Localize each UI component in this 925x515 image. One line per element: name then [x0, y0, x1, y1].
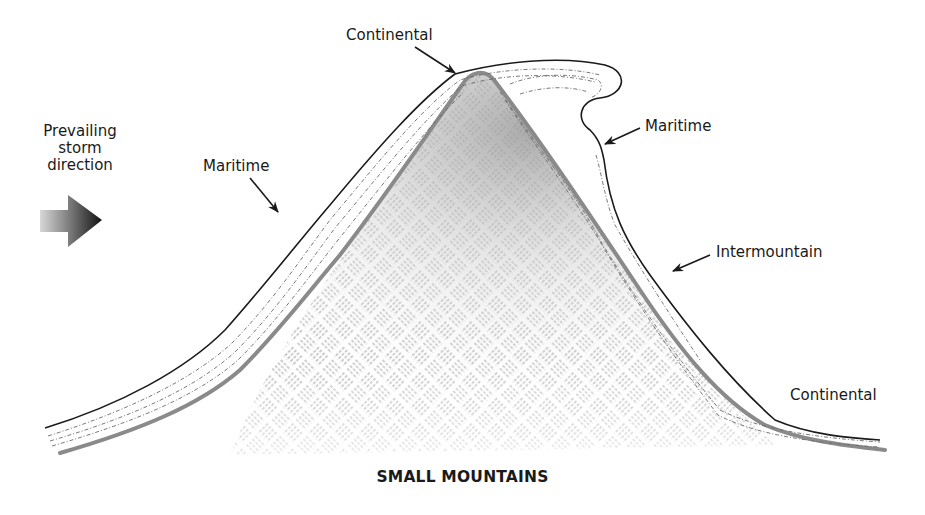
- right-arrow-icon: [40, 195, 102, 247]
- storm-label-line1: Prevailing: [30, 123, 130, 140]
- pointer-intermountain: [673, 255, 710, 271]
- pointer-maritime-right: [605, 128, 640, 144]
- pointer-maritime-left: [250, 178, 278, 212]
- diagram-title: SMALL MOUNTAINS: [0, 468, 925, 486]
- storm-direction-label: Prevailing storm direction: [30, 123, 130, 174]
- label-maritime-left: Maritime: [203, 158, 269, 175]
- pointer-continental-top: [415, 47, 455, 73]
- storm-label-line3: direction: [30, 157, 130, 174]
- diagram-canvas: Prevailing storm direction Continental M…: [0, 0, 925, 515]
- label-continental-top: Continental: [346, 27, 433, 44]
- storm-label-line2: storm: [30, 140, 130, 157]
- label-maritime-right: Maritime: [645, 118, 711, 135]
- label-continental-right: Continental: [790, 387, 877, 404]
- label-intermountain: Intermountain: [716, 244, 823, 261]
